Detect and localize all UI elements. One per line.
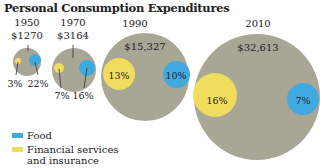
- legend-label-financial-1: Financial services: [27, 144, 118, 155]
- total-label-1990: $15,327: [124, 41, 165, 52]
- legend-item-financial: Financial services and insurance: [12, 144, 118, 166]
- legend-label-food: Food: [27, 130, 52, 141]
- pct-financial-1950: 3%: [7, 78, 22, 89]
- pct-food-1990: 10%: [165, 70, 186, 81]
- legend-item-food: Food: [12, 130, 118, 141]
- pct-food-2010: 7%: [295, 95, 310, 106]
- pct-food-1950: 22%: [27, 78, 48, 89]
- pct-food-1970: 16%: [72, 90, 93, 101]
- legend: Food Financial services and insurance: [12, 130, 118, 168]
- food-swatch-icon: [12, 133, 23, 138]
- total-label-2010: $32,613: [237, 42, 278, 53]
- legend-label-financial-2: and insurance: [27, 155, 118, 166]
- pct-financial-1990: 13%: [108, 70, 129, 81]
- financial-swatch-icon: [12, 147, 23, 152]
- pct-financial-1970: 7%: [54, 90, 69, 101]
- pct-financial-2010: 16%: [206, 95, 227, 106]
